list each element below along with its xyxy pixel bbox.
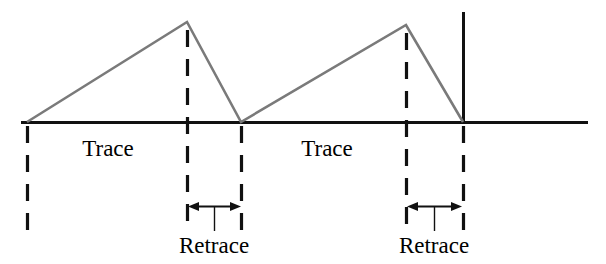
retrace-1-arrowhead-left [188, 202, 199, 211]
retrace-1-label: Retrace [179, 234, 249, 257]
retrace-2-arrow-group [407, 202, 462, 231]
retrace-1-arrow-group [188, 202, 241, 231]
retrace-2-arrowhead-left [407, 202, 418, 211]
retrace-2-arrowhead-right [451, 202, 462, 211]
waveform-diagram-canvas [0, 0, 606, 264]
retrace-2-label: Retrace [399, 234, 469, 257]
trace-2-label: Trace [301, 137, 353, 160]
retrace-1-arrowhead-right [230, 202, 241, 211]
sweep-waveform-figure: Trace Trace Retrace Retrace [0, 0, 606, 264]
sweep-waveform-path [27, 22, 463, 122]
trace-1-label: Trace [82, 137, 134, 160]
